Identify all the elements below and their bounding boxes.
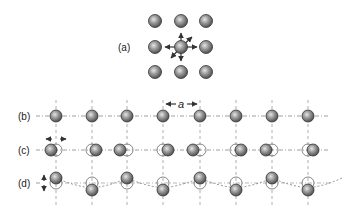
atom xyxy=(266,172,278,184)
atom xyxy=(149,41,162,54)
atom xyxy=(90,144,102,156)
panel-d-label: (d) xyxy=(18,178,30,189)
panel-d: (d) xyxy=(18,172,342,196)
atom xyxy=(162,144,174,156)
atom xyxy=(121,110,133,122)
atom xyxy=(149,15,162,28)
atom xyxy=(86,110,98,122)
atom xyxy=(302,110,314,122)
panel-b-label: (b) xyxy=(18,111,30,122)
atom xyxy=(157,110,169,122)
atom xyxy=(114,144,126,156)
atom xyxy=(260,144,272,156)
atom xyxy=(307,144,319,156)
atom xyxy=(200,41,213,54)
atom xyxy=(266,110,278,122)
atom xyxy=(86,184,98,196)
atom xyxy=(121,172,133,184)
atom xyxy=(149,66,162,79)
atom xyxy=(157,184,169,196)
spacing-indicator: a xyxy=(166,98,197,110)
atom xyxy=(175,66,188,79)
atom xyxy=(302,184,314,196)
panel-a: (a) xyxy=(118,15,213,79)
spacing-label: a xyxy=(178,98,184,110)
atom xyxy=(200,15,213,28)
atom xyxy=(235,144,247,156)
atom xyxy=(200,66,213,79)
atom xyxy=(50,172,62,184)
panel-c-label: (c) xyxy=(18,145,30,156)
atom xyxy=(194,110,206,122)
phonon-diagram: (a) xyxy=(0,0,356,214)
atom xyxy=(45,144,57,156)
atom xyxy=(230,110,242,122)
panel-c: (c) xyxy=(18,139,330,156)
central-atom xyxy=(175,41,188,54)
atom xyxy=(187,144,199,156)
panel-b: (b) xyxy=(18,110,330,122)
panel-a-label: (a) xyxy=(118,42,130,53)
atom xyxy=(194,172,206,184)
atom xyxy=(175,15,188,28)
atom xyxy=(230,184,242,196)
atom xyxy=(50,110,62,122)
